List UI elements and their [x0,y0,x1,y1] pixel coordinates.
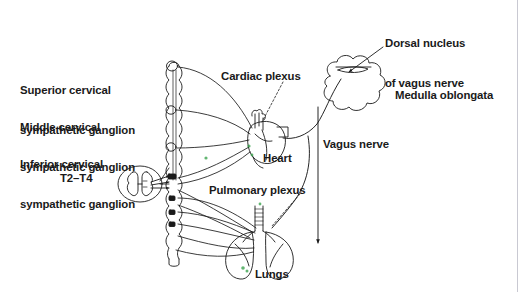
label-inferior-cervical-ganglion-line1: Inferior cervical [20,158,135,171]
label-cardiac-plexus: Cardiac plexus [221,70,301,83]
medulla-oblongata-shape [324,55,385,110]
pulmonary-sympathetic-fibers [176,190,256,256]
label-inferior-cervical-ganglion-line2: sympathetic ganglion [20,198,135,211]
inferior-cervical-ganglion [166,143,176,151]
label-dorsal-nucleus-line1: Dorsal nucleus [385,37,465,50]
label-spinal-segments: T2–T4 [60,172,92,185]
label-lungs: Lungs [255,268,289,281]
label-medulla-oblongata: Medulla oblongata [395,89,493,102]
label-heart: Heart [263,152,292,165]
label-vagus-nerve: Vagus nerve [323,138,389,151]
anatomy-figure: Superior cervical sympathetic ganglion M… [0,0,519,293]
label-pulmonary-plexus: Pulmonary plexus [209,184,306,197]
pulmonary-plexus-leader [272,194,300,226]
sympathetic-chain [166,61,182,266]
cardiac-sympathetic-fibers [177,67,252,184]
